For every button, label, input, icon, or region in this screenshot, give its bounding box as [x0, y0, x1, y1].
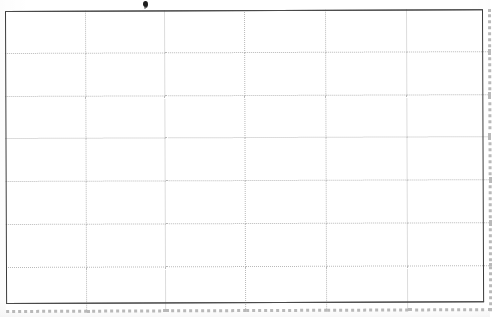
table-cell[interactable] — [5, 138, 86, 181]
table-cell[interactable] — [5, 11, 86, 54]
table-cell[interactable] — [164, 10, 244, 53]
table-cell[interactable] — [85, 10, 164, 53]
table-cell[interactable] — [326, 223, 407, 266]
table-body — [5, 9, 491, 311]
table-row[interactable] — [5, 52, 490, 97]
table-cell[interactable] — [6, 224, 87, 267]
table-cell[interactable] — [165, 181, 245, 224]
table-cell[interactable] — [86, 181, 165, 224]
table-cell[interactable] — [165, 53, 245, 96]
table-cell[interactable] — [326, 180, 407, 223]
table-cell[interactable] — [407, 52, 490, 95]
table-cell[interactable] — [245, 52, 326, 95]
table-cell[interactable] — [86, 224, 165, 267]
table-cell[interactable] — [86, 267, 165, 311]
table-row[interactable] — [5, 137, 490, 182]
table-cell[interactable] — [86, 53, 165, 96]
table-cell[interactable] — [407, 137, 490, 180]
table-cell[interactable] — [406, 9, 489, 52]
table-cell[interactable] — [326, 266, 407, 310]
table-cell[interactable] — [326, 52, 407, 95]
table-cell[interactable] — [245, 137, 326, 180]
table-cell[interactable] — [407, 180, 490, 223]
table-cell[interactable] — [245, 266, 326, 310]
table-cell[interactable] — [5, 96, 86, 138]
table-row[interactable] — [5, 9, 490, 53]
table-cell[interactable] — [86, 96, 165, 138]
table-cell[interactable] — [86, 138, 165, 181]
table-row[interactable] — [6, 266, 491, 312]
table-cell[interactable] — [245, 180, 326, 223]
blank-grid-table[interactable] — [5, 9, 492, 313]
table-cell[interactable] — [407, 266, 490, 310]
table-cell[interactable] — [325, 9, 406, 52]
table-cell[interactable] — [165, 138, 245, 181]
table-row[interactable] — [5, 95, 490, 139]
table-cell[interactable] — [407, 223, 490, 266]
table-cell[interactable] — [245, 95, 326, 137]
table-cell[interactable] — [165, 96, 245, 138]
table-cell[interactable] — [6, 267, 87, 311]
table-cell[interactable] — [244, 10, 325, 53]
table-cell[interactable] — [326, 137, 407, 180]
table-cell[interactable] — [326, 95, 407, 137]
table-row[interactable] — [6, 180, 491, 225]
table-cell[interactable] — [245, 223, 326, 266]
table-cell[interactable] — [407, 95, 490, 137]
table-row[interactable] — [6, 223, 491, 268]
table-cell[interactable] — [165, 224, 245, 267]
table-cell[interactable] — [165, 267, 245, 311]
table-cell[interactable] — [5, 53, 86, 96]
table-cell[interactable] — [6, 181, 87, 224]
